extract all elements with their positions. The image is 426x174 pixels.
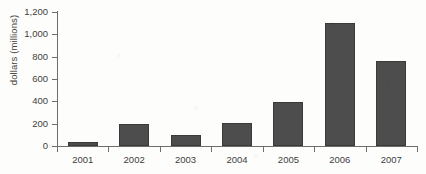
x-axis-tick-mark (57, 147, 58, 152)
y-axis-tick-label: 400 (14, 96, 48, 105)
y-axis-tick-label: 1,000 (14, 29, 48, 38)
x-axis-tick-label-2001: 2001 (57, 154, 109, 165)
y-axis-tick-label: 600 (14, 74, 48, 83)
x-axis-tick-label-2004: 2004 (211, 154, 263, 165)
y-axis-tick-label: 200 (14, 119, 48, 128)
x-axis-tick-label-2002: 2002 (108, 154, 160, 165)
x-axis-tick-mark (417, 147, 418, 152)
x-axis-tick-label-2006: 2006 (314, 154, 366, 165)
bar-2001 (68, 142, 98, 146)
x-axis-tick-label-2003: 2003 (160, 154, 212, 165)
x-axis-tick-label-2005: 2005 (262, 154, 314, 165)
y-axis-tick-label: 0 (14, 141, 48, 150)
y-axis-tick-label: 800 (14, 52, 48, 61)
plot-area (57, 12, 417, 146)
bar-2003 (171, 135, 201, 146)
x-axis-tick-mark (160, 147, 161, 152)
bar-2005 (273, 102, 303, 146)
x-axis-tick-mark (211, 147, 212, 152)
x-axis-tick-label-2007: 2007 (365, 154, 417, 165)
x-axis-tick-mark (366, 147, 367, 152)
x-axis-tick-mark (314, 147, 315, 152)
y-axis-tick-label: 1,200 (14, 7, 48, 16)
bar-2006 (325, 23, 355, 146)
x-axis-line (57, 146, 418, 147)
bar-2002 (119, 124, 149, 146)
x-axis-tick-mark (263, 147, 264, 152)
bar-2007 (376, 61, 406, 146)
bar-chart-figure: dollars (millions) 02004006008001,0001,2… (0, 0, 426, 174)
x-axis-tick-mark (108, 147, 109, 152)
bar-2004 (222, 123, 252, 146)
